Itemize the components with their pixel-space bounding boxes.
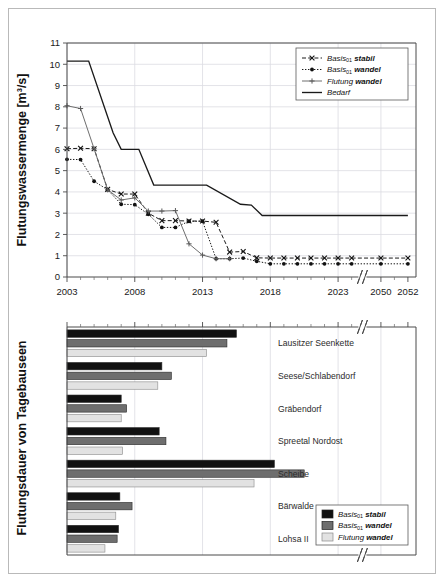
bar-b-rwalde-0 xyxy=(67,493,120,500)
bar-scheibe-1 xyxy=(67,470,304,477)
line-chart-flutungswassermenge: 01234567891011 Flutungswassermenge [m³/s… xyxy=(0,0,446,310)
legend-item-label: Basis01 stabil xyxy=(338,510,386,520)
bottom-chart-y-axis-title: Flutungsdauer von Tagebauseen xyxy=(15,341,29,536)
top-y-tick: 7 xyxy=(55,122,60,133)
legend-item-label: Basis01 stabil xyxy=(327,54,375,64)
category-label: Lohsa II xyxy=(278,534,309,544)
top-y-tick: 5 xyxy=(55,165,60,176)
bar-lohsa-ii-0 xyxy=(67,525,119,532)
bar-seese-schlabendorf-0 xyxy=(67,362,162,369)
x-tick-label: 2023 xyxy=(328,286,349,297)
top-y-tick: 2 xyxy=(55,229,60,240)
legend-item-label: Flutung wandel xyxy=(327,77,382,86)
category-label: Scheibe xyxy=(278,469,309,479)
category-label: Spreetal Nordost xyxy=(278,436,343,446)
top-y-tick: 4 xyxy=(55,186,60,197)
bar-lausitzer-seenkette-0 xyxy=(67,330,236,337)
legend-swatch xyxy=(322,522,333,530)
category-label: Gräbendorf xyxy=(278,404,322,414)
bar-lausitzer-seenkette-2 xyxy=(67,349,207,356)
x-tick-label: 2003 xyxy=(56,286,77,297)
top-y-tick: 11 xyxy=(50,37,60,48)
x-tick-label: 2018 xyxy=(260,286,281,297)
top-y-tick: 6 xyxy=(55,144,60,155)
x-tick-label: 2050 xyxy=(370,286,391,297)
legend-item-label: Bedarf xyxy=(327,88,351,97)
bar-gr-bendorf-1 xyxy=(67,405,127,412)
legend-swatch xyxy=(322,533,333,541)
series-basis01-wandel xyxy=(67,159,408,263)
bar-seese-schlabendorf-1 xyxy=(67,372,171,379)
bar-scheibe-0 xyxy=(67,460,274,467)
top-y-tick: 1 xyxy=(55,250,60,261)
top-y-tick: 3 xyxy=(55,208,60,219)
bar-lohsa-ii-2 xyxy=(67,545,105,552)
bar-seese-schlabendorf-2 xyxy=(67,382,158,389)
category-label: Bärwalde xyxy=(278,501,314,511)
bar-spreetal-nordost-1 xyxy=(67,437,166,444)
bottom-chart-legend: Basis01 stabilBasis01 wandelFlutung wand… xyxy=(316,505,408,545)
x-tick-label: 2052 xyxy=(397,286,418,297)
legend-item-label: Flutung wandel xyxy=(338,533,393,542)
figure-root: 01234567891011 Flutungswassermenge [m³/s… xyxy=(0,0,446,583)
top-y-tick: 8 xyxy=(55,101,60,112)
bar-b-rwalde-1 xyxy=(67,502,132,509)
bottom-chart-bars xyxy=(67,330,304,552)
top-chart-legend: Basis01 stabilBasis01 wandelFlutung wand… xyxy=(296,48,408,100)
top-y-tick: 0 xyxy=(55,271,60,282)
x-tick-label: 2013 xyxy=(192,286,213,297)
legend-item-label: Basis01 wandel xyxy=(327,65,382,75)
bar-spreetal-nordost-0 xyxy=(67,428,159,435)
bar-gr-bendorf-0 xyxy=(67,395,121,402)
category-label: Seese/Schlabendorf xyxy=(278,371,356,381)
top-y-tick: 9 xyxy=(55,80,60,91)
bar-chart-flutungsdauer: Lausitzer SeenketteSeese/SchlabendorfGrä… xyxy=(0,303,446,583)
top-chart-y-tick-labels: 01234567891011 xyxy=(49,37,60,282)
top-y-tick: 10 xyxy=(49,59,60,70)
legend-swatch xyxy=(322,510,333,518)
legend-item-label: Basis01 wandel xyxy=(338,521,393,531)
top-chart-y-axis-title: Flutungswassermenge [m³/s] xyxy=(15,74,29,247)
bar-gr-bendorf-2 xyxy=(67,414,121,421)
category-label: Lausitzer Seenkette xyxy=(278,338,354,348)
bar-lausitzer-seenkette-1 xyxy=(67,340,227,347)
bar-scheibe-2 xyxy=(67,480,254,487)
bar-b-rwalde-2 xyxy=(67,512,116,519)
bar-spreetal-nordost-2 xyxy=(67,447,123,454)
series-flutung-wandel xyxy=(67,106,230,259)
x-tick-label: 2008 xyxy=(124,286,145,297)
bar-lohsa-ii-1 xyxy=(67,535,117,542)
